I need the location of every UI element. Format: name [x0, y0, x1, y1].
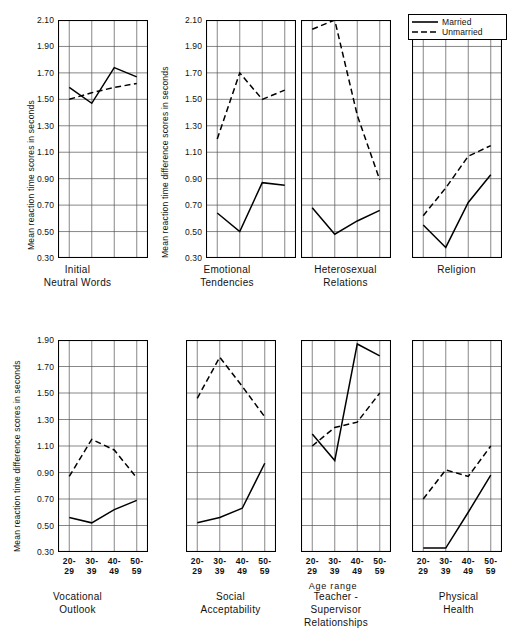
multi-panel-line-chart-figure: Mean reaction time scores in seconds 2.1… [0, 0, 517, 631]
x-tick-labels-p6: 20-2930-3940-4950-59 [186, 556, 276, 580]
y-tick-labels-p5: 1.901.701.501.301.100.900.700.500.30 [14, 340, 54, 552]
x-tick-labels-p8: 20-2930-3940-4950-59 [412, 556, 502, 580]
series-line-married [312, 344, 380, 461]
dashed-line-icon [412, 28, 438, 36]
series-line-unmarried [312, 20, 380, 180]
y-tick-label: 1.70 [185, 68, 202, 78]
y-tick-label: 1.30 [37, 415, 54, 425]
plot-svg [58, 340, 148, 552]
y-tick-label: 1.70 [37, 68, 54, 78]
plot-area-p2 [206, 20, 296, 258]
series-line-married [423, 475, 491, 548]
y-tick-label: 0.70 [37, 200, 54, 210]
y-tick-labels-p2: 2.101.901.701.501.301.100.900.700.500.30 [162, 20, 202, 258]
y-tick-label: 1.70 [37, 362, 54, 372]
x-tick-label: 50-59 [476, 556, 506, 576]
y-tick-label: 1.90 [37, 41, 54, 51]
legend-entry-married: Married [412, 17, 502, 27]
panel-row-top: Mean reaction time scores in seconds 2.1… [0, 0, 517, 305]
plot-svg [412, 20, 502, 258]
y-tick-label: 2.10 [37, 15, 54, 25]
y-tick-label: 1.50 [37, 388, 54, 398]
y-tick-label: 1.10 [37, 441, 54, 451]
y-tick-label: 0.50 [37, 521, 54, 531]
y-tick-label: 0.30 [37, 547, 54, 557]
y-tick-label: 1.90 [37, 335, 54, 345]
y-tick-label: 1.50 [185, 94, 202, 104]
series-line-married [423, 175, 491, 248]
x-tick-labels-p5: 20-2930-3940-4950-59 [58, 556, 148, 580]
plot-area-p6 [186, 340, 276, 552]
x-tick-labels-p7: 20-2930-3940-4950-59 [301, 556, 391, 580]
series-line-unmarried [69, 439, 137, 477]
series-line-married [69, 500, 137, 523]
y-tick-label: 0.30 [185, 253, 202, 263]
plot-area-p3 [301, 20, 391, 258]
x-tick-label: 50-59 [250, 556, 280, 576]
y-tick-label: 0.90 [37, 174, 54, 184]
legend-label-married: Married [442, 17, 472, 27]
legend: Married Unmarried [408, 14, 507, 40]
series-line-married [217, 183, 285, 232]
y-tick-label: 0.70 [185, 200, 202, 210]
y-tick-label: 0.50 [37, 227, 54, 237]
plot-svg [58, 20, 148, 258]
y-tick-label: 2.10 [185, 15, 202, 25]
y-tick-label: 1.30 [185, 121, 202, 131]
solid-line-icon [412, 18, 438, 26]
y-tick-label: 1.30 [37, 121, 54, 131]
panel-caption-p8: Physical Health [386, 590, 517, 616]
x-tick-label: 50-59 [122, 556, 152, 576]
legend-entry-unmarried: Unmarried [412, 27, 502, 37]
panel-caption-p1: Initial Neutral Words [5, 263, 150, 289]
plot-svg [206, 20, 296, 258]
panel-caption-p5: Vocational Outlook [5, 590, 150, 616]
y-tick-label: 0.90 [37, 468, 54, 478]
series-line-unmarried [217, 73, 285, 139]
y-tick-label: 1.10 [185, 147, 202, 157]
y-tick-labels-p1: 2.101.901.701.501.301.100.900.700.500.30 [0, 20, 54, 258]
plot-area-p8 [412, 340, 502, 552]
y-tick-label: 1.50 [37, 94, 54, 104]
panel-row-bottom: Mean reaction time difference scores in … [0, 300, 517, 631]
plot-area-p7 [301, 340, 391, 552]
plot-svg [186, 340, 276, 552]
y-tick-label: 0.70 [37, 494, 54, 504]
panel-caption-p4: Religion [384, 263, 517, 276]
plot-area-p1 [58, 20, 148, 258]
x-tick-label: 50-59 [365, 556, 395, 576]
plot-area-p5 [58, 340, 148, 552]
y-tick-label: 0.90 [185, 174, 202, 184]
plot-svg [301, 20, 391, 258]
y-tick-label: 1.10 [37, 147, 54, 157]
y-tick-label: 0.50 [185, 227, 202, 237]
legend-label-unmarried: Unmarried [442, 27, 483, 37]
series-line-married [312, 208, 380, 234]
plot-area-p4 [412, 20, 502, 258]
y-tick-label: 1.90 [185, 41, 202, 51]
plot-svg [301, 340, 391, 552]
y-tick-label: 0.30 [37, 253, 54, 263]
plot-svg [412, 340, 502, 552]
